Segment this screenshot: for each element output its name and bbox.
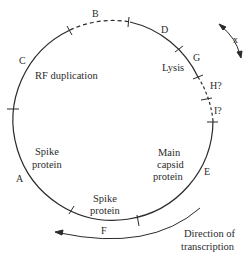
gene-label-g: G	[193, 52, 200, 63]
gene-label-i: I?	[214, 105, 222, 116]
tick-b-d	[128, 17, 129, 27]
dashed-arc-b	[70, 20, 130, 30]
tick-h-i	[201, 98, 212, 100]
genome-circle	[13, 20, 213, 220]
function-label-spike-left-2: protein	[32, 159, 62, 170]
gene-label-e: E	[204, 166, 210, 177]
gene-label-f: F	[101, 225, 107, 236]
transcription-arrow	[55, 208, 200, 239]
gene-label-b: B	[92, 8, 99, 19]
function-label-spike-bottom-2: protein	[90, 205, 120, 216]
function-label-capsid-2: capsid	[157, 159, 185, 170]
function-label-lysis: Lysis	[162, 62, 184, 73]
function-label-rf-duplication: RF duplication	[35, 70, 98, 81]
function-label-capsid-1: Main	[158, 147, 181, 158]
gene-label-h: H?	[210, 80, 222, 91]
x-arrow-head-bottom	[237, 51, 242, 58]
genome-map: x Direction of transcription A B C D E F…	[0, 0, 251, 259]
tick-g-h	[193, 75, 203, 79]
x-arrow	[219, 24, 242, 58]
direction-label-line1: Direction of	[184, 228, 236, 239]
gene-label-c: C	[19, 55, 26, 66]
transcription-arrow-head	[55, 230, 63, 235]
function-label-capsid-3: protein	[153, 171, 183, 182]
transcription-arrow-arc	[60, 208, 200, 239]
gene-label-d: D	[161, 24, 168, 35]
direction-label-line2: transcription	[181, 241, 235, 252]
x-arrow-label: x	[233, 34, 238, 45]
function-label-spike-left-1: Spike	[35, 146, 59, 157]
function-label-spike-bottom-1: Spike	[93, 193, 117, 204]
gene-label-a: A	[16, 173, 24, 184]
solid-arc-main	[13, 30, 213, 220]
